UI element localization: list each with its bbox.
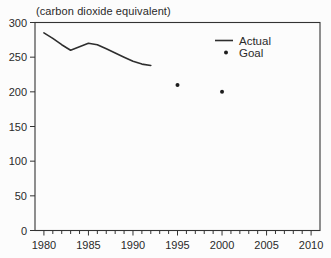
x-tick-label: 1990 (121, 239, 145, 251)
plot-area: 1980198519901995200020052010050100150200… (0, 0, 331, 258)
axes: 1980198519901995200020052010050100150200… (9, 17, 324, 252)
y-tick-label: 300 (9, 17, 27, 29)
y-tick-label: 200 (9, 86, 27, 98)
x-tick-label: 2000 (210, 239, 234, 251)
y-tick-label: 250 (9, 51, 27, 63)
y-tick-label: 0 (21, 225, 27, 237)
actual-line (44, 33, 151, 66)
x-tick-label: 2005 (254, 239, 278, 251)
emissions-chart: (carbon dioxide equivalent) 198019851990… (0, 0, 331, 258)
y-tick-label: 100 (9, 155, 27, 167)
legend: Actual Goal (215, 35, 271, 59)
legend-goal-label: Goal (239, 47, 263, 59)
goal-point (220, 90, 224, 94)
goal-point (176, 83, 180, 87)
plot-box (35, 23, 320, 231)
y-tick-label: 150 (9, 121, 27, 133)
x-tick-label: 1995 (165, 239, 189, 251)
y-tick-label: 50 (15, 190, 27, 202)
x-tick-label: 1985 (76, 239, 100, 251)
x-tick-label: 1980 (32, 239, 56, 251)
legend-goal-dot-sample (224, 51, 228, 55)
legend-actual-label: Actual (239, 35, 271, 47)
series-layer (44, 33, 224, 94)
x-tick-label: 2010 (299, 239, 323, 251)
